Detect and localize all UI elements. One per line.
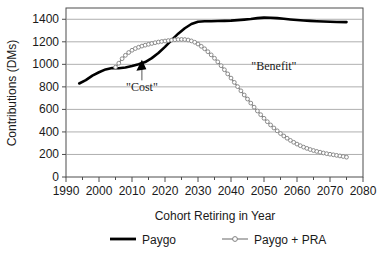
x-tick-label: 2030	[185, 184, 212, 198]
series-marker	[262, 116, 266, 120]
series-marker	[249, 101, 253, 105]
x-tick-label: 2080	[350, 184, 377, 198]
series-marker	[229, 76, 233, 80]
series-marker	[239, 89, 243, 93]
series-marker	[120, 57, 124, 61]
x-tick-label: 2040	[218, 184, 245, 198]
annotation-label: "Cost"	[126, 80, 158, 94]
y-tick-label: 400	[39, 125, 59, 139]
series-marker	[114, 65, 118, 69]
y-tick-label: 200	[39, 147, 59, 161]
series-marker	[219, 64, 223, 68]
x-tick-label: 2070	[317, 184, 344, 198]
series-marker	[256, 109, 260, 113]
y-tick-label: 600	[39, 102, 59, 116]
series-marker	[345, 155, 349, 159]
series-marker	[246, 97, 250, 101]
x-tick-label: 2060	[284, 184, 311, 198]
series-marker	[272, 126, 276, 130]
series-marker	[236, 85, 240, 89]
legend-marker-paygo-pra	[233, 237, 238, 242]
y-tick-label: 0	[52, 170, 59, 184]
x-axis-title: Cohort Retiring in Year	[155, 209, 276, 223]
series-marker	[216, 60, 220, 64]
legend-label: Paygo	[142, 233, 176, 247]
contributions-line-chart: 0200400600800100012001400 19902000201020…	[0, 0, 385, 257]
x-tick-label: 2050	[251, 184, 278, 198]
series-marker	[259, 113, 263, 117]
x-tick-label: 1990	[53, 184, 80, 198]
legend-label: Paygo + PRA	[254, 233, 326, 247]
series-marker	[269, 123, 273, 127]
series-marker	[232, 80, 236, 84]
x-tick-label: 2010	[119, 184, 146, 198]
series-marker	[223, 68, 227, 72]
series-marker	[242, 93, 246, 97]
series-marker	[117, 61, 121, 65]
x-tick-label: 2020	[152, 184, 179, 198]
series-marker	[265, 120, 269, 124]
series-marker	[252, 105, 256, 109]
series-marker	[206, 50, 210, 54]
y-axis-title: Contributions (DMs)	[5, 40, 19, 147]
series-marker	[213, 56, 217, 60]
y-tick-label: 800	[39, 80, 59, 94]
series-marker	[226, 72, 230, 76]
series-marker	[275, 129, 279, 133]
y-tick-label: 1000	[32, 57, 59, 71]
series-marker	[124, 53, 128, 57]
chart-figure: 0200400600800100012001400 19902000201020…	[0, 0, 385, 257]
series-marker	[203, 47, 207, 51]
series-marker	[209, 53, 213, 57]
y-tick-label: 1400	[32, 12, 59, 26]
annotation-label: "Benefit"	[251, 59, 296, 73]
y-tick-label: 1200	[32, 35, 59, 49]
x-tick-label: 2000	[86, 184, 113, 198]
